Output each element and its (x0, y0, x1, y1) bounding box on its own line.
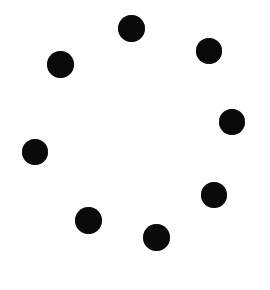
dot-lower-right (201, 182, 227, 208)
loading-spinner (0, 0, 270, 290)
dot-right (219, 109, 245, 135)
dot-upper-left (47, 51, 74, 78)
dot-left (22, 139, 48, 165)
dot-lower-left (75, 207, 102, 234)
dot-upper-right (196, 38, 222, 64)
dot-top (118, 15, 145, 42)
dot-bottom (143, 224, 170, 251)
